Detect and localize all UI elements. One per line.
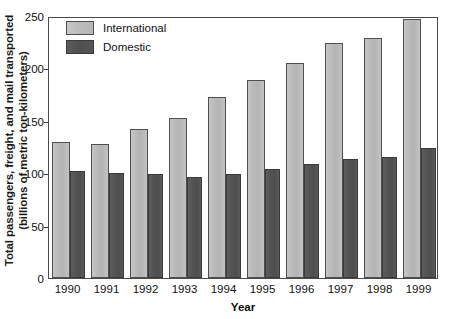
legend-swatch-international xyxy=(66,21,94,35)
x-tick-label: 1998 xyxy=(367,283,393,295)
bar-domestic xyxy=(265,169,280,278)
bar-international xyxy=(52,142,70,278)
x-axis-title: Year xyxy=(48,301,438,313)
x-tick-label: 1996 xyxy=(289,283,315,295)
plot-area xyxy=(48,17,438,279)
x-tick-label: 1992 xyxy=(133,283,159,295)
x-tick-label: 1990 xyxy=(55,283,81,295)
bar-domestic xyxy=(148,174,163,278)
x-tick-label: 1994 xyxy=(211,283,237,295)
bar-group xyxy=(361,18,400,278)
bar-group xyxy=(88,18,127,278)
bar-group xyxy=(322,18,361,278)
bar-international xyxy=(364,38,382,278)
bar-international xyxy=(130,129,148,278)
bar-group xyxy=(244,18,283,278)
legend: International Domestic xyxy=(66,21,166,54)
legend-label-domestic: Domestic xyxy=(103,41,151,53)
bar-domestic xyxy=(382,157,397,278)
bars-container xyxy=(49,18,437,278)
x-axis-ticks: 1990199119921993199419951996199719981999 xyxy=(48,283,438,299)
bar-domestic xyxy=(70,171,85,278)
bar-international xyxy=(286,63,304,278)
bar-international xyxy=(91,144,109,278)
legend-swatch-domestic xyxy=(66,40,94,54)
x-tick-label: 1999 xyxy=(406,283,432,295)
bar-domestic xyxy=(343,159,358,278)
bar-international xyxy=(247,80,265,278)
legend-item-international: International xyxy=(66,21,166,35)
bar-group xyxy=(127,18,166,278)
bar-international xyxy=(169,118,187,278)
y-axis-ticks: 050100150200250 xyxy=(8,0,44,319)
bar-international xyxy=(208,97,226,278)
y-tick-label: 150 xyxy=(14,116,44,128)
x-tick-label: 1991 xyxy=(94,283,120,295)
bar-international xyxy=(325,43,343,278)
bar-group xyxy=(400,18,439,278)
y-tick-label: 100 xyxy=(14,168,44,180)
y-tick-label: 50 xyxy=(14,221,44,233)
bar-international xyxy=(403,19,421,278)
bar-group xyxy=(49,18,88,278)
y-tick-label: 0 xyxy=(14,273,44,285)
bar-domestic xyxy=(421,148,436,278)
bar-domestic xyxy=(304,164,319,278)
bar-domestic xyxy=(226,174,241,278)
bar-group xyxy=(166,18,205,278)
legend-label-international: International xyxy=(103,22,166,34)
legend-item-domestic: Domestic xyxy=(66,40,166,54)
x-tick-label: 1997 xyxy=(328,283,354,295)
y-tick-label: 200 xyxy=(14,63,44,75)
bar-group xyxy=(283,18,322,278)
y-tick-label: 250 xyxy=(14,11,44,23)
bar-group xyxy=(205,18,244,278)
bar-domestic xyxy=(187,177,202,278)
bar-chart: Total passengers, freight, and mail tran… xyxy=(0,0,454,319)
x-tick-label: 1993 xyxy=(172,283,198,295)
bar-domestic xyxy=(109,173,124,278)
x-tick-label: 1995 xyxy=(250,283,276,295)
